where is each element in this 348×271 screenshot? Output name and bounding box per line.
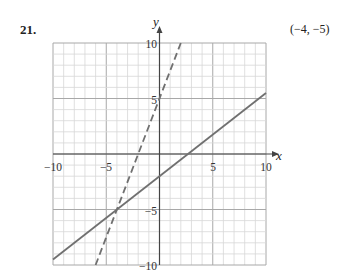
y-tick-neg10: −10 (139, 260, 157, 271)
x-axis-label: x (275, 148, 282, 163)
x-tick-10: 10 (260, 161, 272, 173)
axes (53, 26, 279, 265)
x-tick-neg5: −5 (100, 161, 112, 173)
x-tick-5: 5 (210, 161, 216, 173)
y-tick-5: 5 (151, 94, 157, 106)
coordinate-plot: y x −10 −5 5 10 10 5 −5 −10 (0, 0, 348, 271)
x-tick-neg10: −10 (44, 161, 62, 173)
y-tick-10: 10 (146, 38, 158, 50)
y-axis-label: y (151, 14, 159, 29)
y-tick-neg5: −5 (145, 205, 157, 217)
